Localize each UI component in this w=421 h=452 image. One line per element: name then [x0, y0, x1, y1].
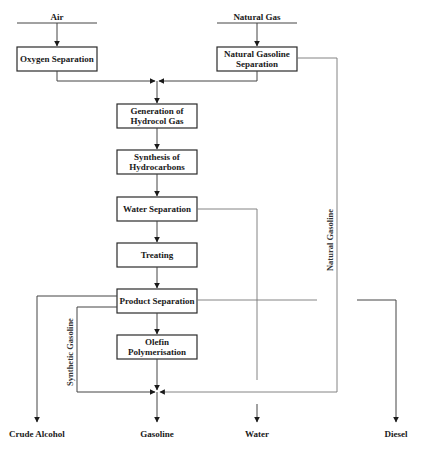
- output-water: Water: [245, 429, 269, 439]
- generation-label-line2: Hydrocol Gas: [130, 116, 184, 126]
- natural-gasoline-stream-label: Natural Gasoline: [325, 209, 335, 271]
- olefin-label-line2: Polymerisation: [128, 347, 186, 357]
- synthetic-gasoline-stream-label: Synthetic Gasoline: [65, 318, 75, 386]
- synthesis-label-line1: Synthesis of: [134, 152, 181, 162]
- output-diesel: Diesel: [385, 429, 408, 439]
- arrow-ngs-to-merge: [159, 71, 257, 81]
- box-olefin-polymerisation: Olefin Polymerisation: [117, 335, 197, 359]
- box-treating: Treating: [117, 243, 197, 267]
- input-natural-gas: Natural Gas: [217, 12, 297, 46]
- generation-label-line1: Generation of: [130, 106, 184, 116]
- water-separation-label: Water Separation: [123, 204, 191, 214]
- synthesis-label-line2: Hydrocarbons: [129, 162, 185, 172]
- input-natural-gas-label: Natural Gas: [233, 12, 281, 22]
- ngs-label-line1: Natural Gasoline: [224, 49, 290, 59]
- box-synthesis-of-hydrocarbons: Synthesis of Hydrocarbons: [117, 150, 197, 174]
- arrow-oxygen-to-merge: [57, 71, 155, 81]
- box-water-separation: Water Separation: [117, 197, 197, 221]
- input-air-label: Air: [51, 12, 64, 22]
- treating-label: Treating: [141, 250, 174, 260]
- output-crude-alcohol: Crude Alcohol: [9, 429, 65, 439]
- box-product-separation: Product Separation: [117, 289, 197, 313]
- box-oxygen-separation: Oxygen Separation: [17, 47, 97, 71]
- arrow-to-diesel: [357, 300, 396, 422]
- process-flow-diagram: Air Natural Gas Oxygen Separation Natura…: [0, 0, 421, 452]
- ngs-label-line2: Separation: [236, 59, 278, 69]
- box-generation-of-hydrocol-gas: Generation of Hydrocol Gas: [117, 104, 197, 128]
- input-air: Air: [17, 12, 97, 46]
- box-natural-gasoline-separation: Natural Gasoline Separation: [217, 47, 297, 71]
- output-gasoline: Gasoline: [140, 429, 174, 439]
- product-separation-label: Product Separation: [119, 296, 194, 306]
- line-water-separation-out: [197, 209, 257, 380]
- oxygen-separation-label: Oxygen Separation: [20, 54, 94, 64]
- olefin-label-line1: Olefin: [145, 337, 169, 347]
